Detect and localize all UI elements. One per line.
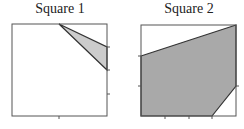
shaded-region-2 xyxy=(141,25,236,116)
shaded-region-1 xyxy=(59,24,107,70)
diagram-canvas xyxy=(0,0,244,129)
square-1-frame xyxy=(12,24,107,116)
